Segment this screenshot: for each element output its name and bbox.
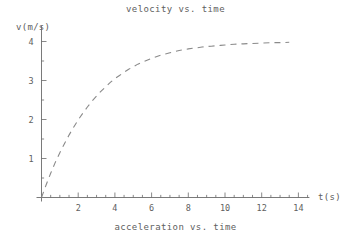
- x-tick-label: 10: [220, 203, 230, 213]
- y-tick-label: 3: [28, 76, 33, 86]
- x-tick-label: 14: [293, 203, 303, 213]
- chart-caption: acceleration vs. time: [0, 222, 351, 232]
- x-tick-label: 6: [149, 203, 154, 213]
- x-tick-label: 8: [186, 203, 191, 213]
- tick-labels-group: 24681012141234: [28, 37, 303, 213]
- x-tick-label: 12: [257, 203, 267, 213]
- tick-marks-group: [42, 42, 308, 198]
- axes-group: [37, 26, 310, 202]
- series-line-velocity: [42, 42, 290, 197]
- x-tick-label: 4: [112, 203, 117, 213]
- y-tick-label: 1: [28, 154, 33, 164]
- x-tick-label: 2: [76, 203, 81, 213]
- chart-page: velocity vs. time v(m/s) t(s) 2468101214…: [0, 0, 351, 240]
- plot-area: 24681012141234: [0, 0, 351, 240]
- y-tick-label: 2: [28, 115, 33, 125]
- data-series-group: [42, 42, 290, 197]
- y-tick-label: 4: [28, 37, 33, 47]
